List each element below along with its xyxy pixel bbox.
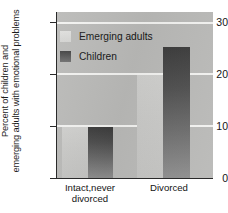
chart-legend: Emerging adults Children — [60, 26, 153, 66]
x-category-intact-line-1: Intact,never — [52, 182, 128, 193]
bar-chart-figure: Percent of children and emerging adults … — [0, 0, 228, 213]
y-axis-title-line-2: emerging adults with emotional problems — [11, 0, 22, 182]
plot-area: Emerging adults Children — [57, 12, 213, 178]
bar-intact-children — [88, 127, 113, 178]
x-axis-line — [56, 178, 213, 179]
legend-label-emerging-adults: Emerging adults — [79, 31, 153, 42]
legend-item-children: Children — [60, 46, 153, 66]
y-axis-title: Percent of children and emerging adults … — [0, 0, 32, 185]
y-axis-title-text: Percent of children and emerging adults … — [0, 0, 32, 182]
legend-swatch-children-icon — [60, 51, 71, 62]
x-category-intact-line-2: divorced — [52, 193, 128, 204]
gridline-30 — [57, 22, 213, 24]
legend-label-children: Children — [79, 51, 117, 62]
bar-divorced-children — [163, 47, 190, 178]
x-category-label-divorced: Divorced — [133, 182, 205, 193]
bar-intact-emerging-adults — [62, 127, 88, 178]
legend-item-emerging-adults: Emerging adults — [60, 26, 153, 46]
x-category-label-intact: Intact,never divorced — [52, 182, 128, 205]
y-axis-title-line-1: Percent of children and — [0, 0, 11, 182]
x-category-divorced-line-1: Divorced — [133, 182, 205, 193]
bar-divorced-emerging-adults — [137, 75, 163, 178]
legend-swatch-emerging-adults-icon — [60, 31, 71, 42]
